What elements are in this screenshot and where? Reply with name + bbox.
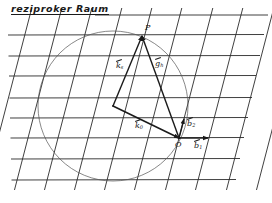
vector-b1-label: b1 — [194, 142, 202, 151]
lattice-grid — [0, 8, 272, 190]
grid-line-slanted — [256, 8, 272, 190]
point-p-label: P — [145, 24, 150, 32]
vector-ks-arrow — [113, 36, 142, 106]
grid-line-horizontal — [10, 98, 253, 99]
vector-ks-label: ks — [116, 62, 123, 71]
grid-line-slanted — [195, 8, 242, 190]
grid-line-slanted — [134, 8, 181, 190]
vector-k0-label: k0 — [135, 122, 143, 131]
grid-line-slanted — [104, 8, 151, 190]
circle-center-point — [112, 105, 114, 107]
vector-b2-label: b2 — [187, 120, 195, 129]
vector-b2-arrow — [179, 119, 184, 138]
origin-point — [178, 137, 181, 140]
grid-line-slanted — [226, 8, 272, 190]
point-o-label: O — [175, 141, 182, 149]
reciprocal-space-diagram — [0, 0, 272, 203]
diagram-title: reziproker Raum — [11, 3, 109, 15]
vector-gh-label: gh — [155, 60, 163, 69]
grid-line-slanted — [165, 8, 212, 190]
grid-line-horizontal — [11, 159, 240, 160]
grid-line-horizontal — [10, 118, 248, 119]
grid-line-horizontal — [9, 76, 256, 77]
